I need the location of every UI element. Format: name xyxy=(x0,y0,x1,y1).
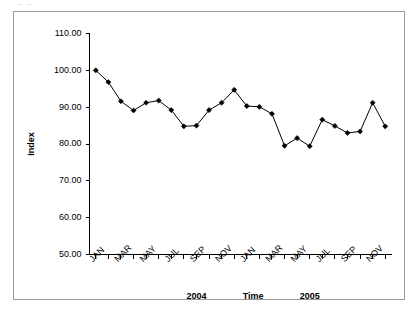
data-point-marker xyxy=(320,117,325,122)
line-chart: 110.00100.0090.0080.0070.0060.0050.00Ind… xyxy=(14,12,404,299)
data-point-marker xyxy=(295,136,300,141)
figure-artifact: ~ ~ xyxy=(18,0,88,9)
x-tick-label: MAY xyxy=(288,244,308,264)
x-tick-label: JAN xyxy=(238,245,257,264)
data-point-marker xyxy=(345,130,350,135)
y-tick-label: 70.00 xyxy=(59,175,82,185)
y-tick-label: 50.00 xyxy=(59,249,82,259)
y-tick-label: 90.00 xyxy=(59,102,82,112)
x-tick-label: JUL xyxy=(163,246,181,264)
chart-frame: 110.00100.0090.0080.0070.0060.0050.00Ind… xyxy=(13,11,405,300)
x-axis-group-label: 2004 xyxy=(186,291,206,300)
y-tick-label: 100.00 xyxy=(54,65,82,75)
x-tick-label: JUL xyxy=(314,246,332,264)
plot-area: 110.00100.0090.0080.0070.0060.0050.00Ind… xyxy=(14,12,404,299)
series-line xyxy=(96,70,385,146)
x-tick-label: MAR xyxy=(112,242,134,264)
data-point-marker xyxy=(383,124,388,129)
y-tick-label: 110.00 xyxy=(55,28,82,38)
x-axis-group-label: 2005 xyxy=(300,291,320,300)
data-point-marker xyxy=(357,129,362,134)
x-tick-label: SEP xyxy=(339,244,359,264)
data-point-marker xyxy=(257,104,262,109)
data-point-marker xyxy=(332,123,337,128)
y-tick-label: 80.00 xyxy=(59,138,82,148)
x-tick-label: MAY xyxy=(137,244,157,264)
x-tick-label: JAN xyxy=(87,245,106,264)
data-point-marker xyxy=(282,143,287,148)
data-point-marker xyxy=(269,111,274,116)
data-point-marker xyxy=(144,100,149,105)
x-tick-label: NOV xyxy=(213,243,234,264)
data-point-marker xyxy=(370,100,375,105)
y-tick-label: 60.00 xyxy=(59,212,82,222)
x-tick-label: SEP xyxy=(188,244,208,264)
x-tick-label: MAR xyxy=(263,242,285,264)
x-tick-label: NOV xyxy=(364,243,385,264)
data-point-marker xyxy=(307,144,312,149)
x-axis-title: Time xyxy=(243,291,264,300)
y-axis-title: Index xyxy=(26,132,36,156)
